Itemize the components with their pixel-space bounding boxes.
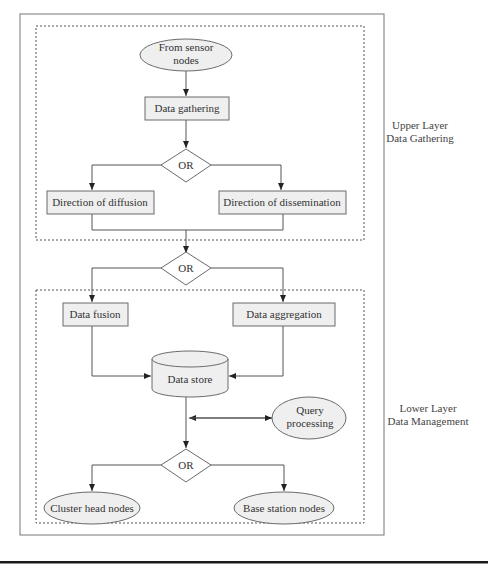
svg-text:Upper Layer: Upper Layer bbox=[392, 119, 448, 131]
svg-text:OR: OR bbox=[178, 159, 194, 171]
svg-text:Data fusion: Data fusion bbox=[69, 308, 121, 320]
node-data-fusion: Data fusion bbox=[63, 303, 128, 326]
or-decision-1: OR bbox=[161, 149, 211, 182]
node-query-processing: Query processing bbox=[272, 397, 346, 439]
from-sensor-line2: nodes bbox=[173, 54, 199, 66]
svg-text:Query: Query bbox=[296, 404, 324, 416]
node-data-aggregation: Data aggregation bbox=[233, 303, 335, 326]
node-base-station-nodes: Base station nodes bbox=[234, 492, 334, 524]
node-data-store: Data store bbox=[152, 351, 228, 397]
node-from-sensor-nodes: From sensor nodes bbox=[140, 39, 232, 71]
bottom-rule bbox=[0, 561, 488, 564]
svg-text:OR: OR bbox=[178, 459, 194, 471]
from-sensor-line1: From sensor bbox=[159, 41, 214, 53]
svg-text:Cluster head nodes: Cluster head nodes bbox=[50, 502, 134, 514]
svg-text:Data aggregation: Data aggregation bbox=[246, 308, 322, 320]
node-direction-of-diffusion: Direction of diffusion bbox=[47, 191, 154, 214]
or-decision-2: OR bbox=[161, 252, 211, 285]
svg-text:Data store: Data store bbox=[168, 373, 213, 385]
upper-layer-label: Upper Layer Data Gathering bbox=[386, 119, 454, 144]
svg-text:Data gathering: Data gathering bbox=[154, 102, 220, 114]
svg-text:OR: OR bbox=[178, 262, 194, 274]
svg-text:Direction of dissemination: Direction of dissemination bbox=[223, 196, 341, 208]
svg-text:Base station nodes: Base station nodes bbox=[243, 502, 325, 514]
svg-text:Data Gathering: Data Gathering bbox=[386, 132, 454, 144]
svg-text:processing: processing bbox=[286, 417, 334, 429]
lower-layer-label: Lower Layer Data Management bbox=[388, 402, 469, 427]
flowchart: From sensor nodes Data gathering OR Dire… bbox=[0, 0, 488, 570]
svg-text:Direction of diffusion: Direction of diffusion bbox=[52, 196, 148, 208]
node-data-gathering: Data gathering bbox=[145, 97, 229, 120]
node-cluster-head-nodes: Cluster head nodes bbox=[44, 492, 140, 524]
or-decision-3: OR bbox=[161, 449, 211, 482]
svg-text:Lower Layer: Lower Layer bbox=[399, 402, 456, 414]
node-direction-of-dissemination: Direction of dissemination bbox=[219, 191, 346, 214]
svg-text:Data Management: Data Management bbox=[388, 415, 469, 427]
